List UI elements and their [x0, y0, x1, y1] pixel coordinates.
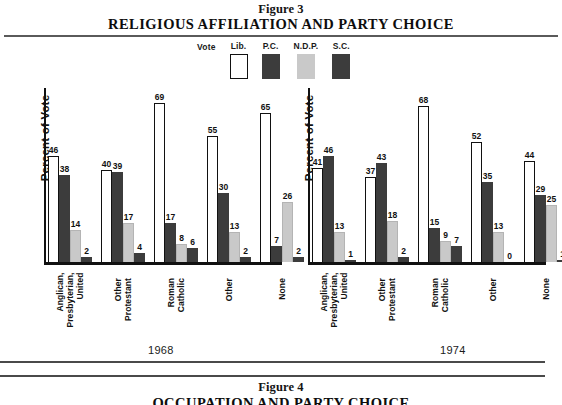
category-label: Other Protestant: [365, 268, 409, 340]
bar-value-label: 1: [345, 249, 356, 259]
bar-liberal: 40: [101, 88, 112, 262]
bar-value-label: 17: [123, 212, 134, 222]
bar-new-democratic-party: 18: [387, 88, 398, 262]
bar-rect: [59, 175, 70, 262]
bar-value-label: 30: [218, 182, 229, 192]
category-label-text: None: [277, 278, 287, 322]
bar-value-label: 38: [59, 164, 70, 174]
category-label-text: Anglican, Presbyterian, United: [55, 272, 85, 327]
bar-liberal: 52: [471, 88, 482, 262]
plot-area-1974: 4146131374318268159752351304429251: [312, 88, 562, 262]
bar-rect: [418, 106, 429, 262]
bar-value-label: 2: [240, 246, 251, 256]
bar-rect: [451, 246, 462, 262]
bar-value-label: 69: [154, 92, 165, 102]
bar-group: 4146131: [312, 88, 356, 262]
category-label-text: Anglican, Presbyterian, United: [319, 272, 349, 327]
bar-rect: [271, 246, 282, 262]
bar-rect: [323, 156, 334, 262]
category-labels-1968: Anglican, Presbyterian, UnitedOther Prot…: [48, 268, 304, 340]
bar-rect: [229, 232, 240, 262]
bar-rect: [493, 232, 504, 262]
bar-rect: [154, 103, 165, 262]
category-label-text: Roman Catholic: [166, 278, 186, 322]
bar-rect: [207, 136, 218, 263]
legend-label: Lib.: [231, 41, 247, 51]
bar-progressive-conservative: 30: [218, 88, 229, 262]
bar-rect: [429, 228, 440, 263]
bar-rect: [387, 221, 398, 262]
bar-liberal: 69: [154, 88, 165, 262]
bar-rect: [70, 230, 81, 262]
bar-progressive-conservative: 7: [271, 88, 282, 262]
bar-social-credit: 6: [187, 88, 198, 262]
bar-progressive-conservative: 17: [165, 88, 176, 262]
bar-new-democratic-party: 8: [176, 88, 187, 262]
legend-swatch-liberal: [230, 54, 248, 79]
bar-value-label: 14: [70, 219, 81, 229]
category-labels-1974: Anglican, Presbyterian, UnitedOther Prot…: [312, 268, 562, 340]
year-label-1968: 1968: [148, 344, 174, 356]
bar-rect: [48, 156, 59, 262]
bar-value-label: 39: [112, 161, 123, 171]
bar-new-democratic-party: 13: [229, 88, 240, 262]
legend-swatch-social-credit: [332, 54, 350, 79]
legend-label: N.D.P.: [294, 41, 319, 51]
category-label: None: [524, 268, 562, 340]
bar-rect: [557, 260, 562, 262]
bar-value-label: 17: [165, 212, 176, 222]
bar-liberal: 55: [207, 88, 218, 262]
bar-rect: [123, 223, 134, 262]
figure3-label: Figure 3: [0, 3, 562, 16]
category-label-text: Other Protestant: [377, 278, 397, 322]
bar-progressive-conservative: 39: [112, 88, 123, 262]
bar-rect: [524, 161, 535, 262]
bar-group: 4039174: [101, 88, 145, 262]
footer-divider-lower: [0, 375, 545, 377]
bar-group: 5235130: [471, 88, 515, 262]
bar-value-label: 40: [101, 159, 112, 169]
bar-value-label: 46: [323, 145, 334, 155]
bar-value-label: 65: [260, 102, 271, 112]
figure4-title: OCCUPATION AND PARTY CHOICE: [0, 395, 562, 405]
bar-social-credit: 1: [345, 88, 356, 262]
category-label-text: None: [541, 278, 551, 322]
bar-value-label: 55: [207, 125, 218, 135]
category-label: Anglican, Presbyterian, United: [312, 268, 356, 340]
bar-rect: [312, 168, 323, 262]
bar-value-label: 46: [48, 145, 59, 155]
bar-rect: [282, 202, 293, 262]
chart-panel-1968: Percent of Vote 463814240391746917865530…: [30, 88, 292, 340]
x-axis-line: [308, 262, 546, 265]
bar-progressive-conservative: 46: [323, 88, 334, 262]
bar-value-label: 2: [81, 246, 92, 256]
legend-item-progressive-conservative: P.C.: [262, 41, 280, 79]
bar-value-label: 37: [365, 166, 376, 176]
bar-social-credit: 0: [504, 88, 515, 262]
plot-area-1968: 463814240391746917865530132657262: [48, 88, 304, 262]
category-label: Roman Catholic: [418, 268, 462, 340]
bar-new-democratic-party: 26: [282, 88, 293, 262]
bar-value-label: 25: [546, 194, 557, 204]
bar-rect: [112, 172, 123, 262]
chart-panel-1974: Percent of Vote 414613137431826815975235…: [294, 88, 556, 340]
figure4-label: Figure 4: [0, 381, 562, 394]
bar-social-credit: 1: [557, 88, 562, 262]
bar-social-credit: 7: [451, 88, 462, 262]
category-label: Anglican, Presbyterian, United: [48, 268, 92, 340]
category-label: Other: [207, 268, 251, 340]
category-label: Other: [471, 268, 515, 340]
bar-new-democratic-party: 13: [493, 88, 504, 262]
bar-value-label: 43: [376, 152, 387, 162]
bar-value-label: 7: [451, 235, 462, 245]
bar-value-label: 2: [398, 246, 409, 256]
figure3-title: RELIGIOUS AFFILIATION AND PARTY CHOICE: [0, 16, 562, 32]
bar-new-democratic-party: 13: [334, 88, 345, 262]
bar-liberal: 68: [418, 88, 429, 262]
bar-value-label: 15: [429, 217, 440, 227]
legend-swatch-progressive-conservative: [262, 54, 280, 79]
bar-rect: [260, 113, 271, 263]
bar-new-democratic-party: 9: [440, 88, 451, 262]
bar-value-label: 0: [504, 251, 515, 261]
bar-liberal: 44: [524, 88, 535, 262]
